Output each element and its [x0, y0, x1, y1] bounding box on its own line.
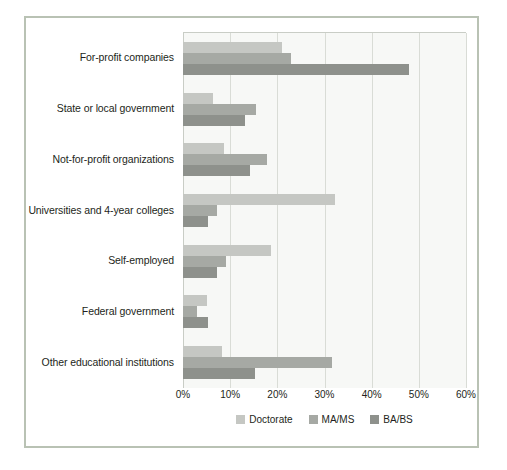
- bar-row: [183, 256, 466, 267]
- x-tick-label: 0%: [176, 389, 190, 400]
- bar-ma-ms[interactable]: [183, 306, 197, 317]
- chart-plot-container: For-profit companiesState or local gover…: [26, 18, 477, 446]
- plot-area: [183, 32, 466, 388]
- bar-ma-ms[interactable]: [183, 256, 226, 267]
- bar-ba-bs[interactable]: [183, 165, 250, 176]
- bar-group: [183, 33, 466, 84]
- legend-swatch-icon: [370, 415, 379, 424]
- category-label: Not-for-profit organizations: [26, 133, 181, 184]
- bar-group: [183, 337, 466, 388]
- bar-ma-ms[interactable]: [183, 205, 217, 216]
- bar-row: [183, 165, 466, 176]
- bar-ma-ms[interactable]: [183, 104, 256, 115]
- legend-label: Doctorate: [249, 414, 292, 425]
- chart-legend: DoctorateMA/MSBA/BS: [183, 410, 466, 428]
- bar-row: [183, 154, 466, 165]
- legend-item-ma-ms[interactable]: MA/MS: [309, 414, 355, 425]
- bar-row: [183, 267, 466, 278]
- bar-doctorate[interactable]: [183, 194, 335, 205]
- bar-doctorate[interactable]: [183, 245, 271, 256]
- bar-group: [183, 287, 466, 338]
- legend-swatch-icon: [309, 415, 318, 424]
- bar-row: [183, 317, 466, 328]
- bar-ba-bs[interactable]: [183, 216, 208, 227]
- x-axis: 0%10%20%30%40%50%60%: [183, 387, 466, 407]
- bar-ba-bs[interactable]: [183, 317, 208, 328]
- bar-ba-bs[interactable]: [183, 368, 255, 379]
- bar-group: [183, 84, 466, 135]
- bar-ba-bs[interactable]: [183, 267, 217, 278]
- bar-row: [183, 368, 466, 379]
- legend-item-ba-bs[interactable]: BA/BS: [370, 414, 412, 425]
- category-axis: For-profit companiesState or local gover…: [26, 32, 181, 387]
- bar-row: [183, 295, 466, 306]
- bar-ma-ms[interactable]: [183, 357, 332, 368]
- bar-doctorate[interactable]: [183, 346, 222, 357]
- category-label: Universities and 4-year colleges: [26, 184, 181, 235]
- bar-ba-bs[interactable]: [183, 64, 409, 75]
- category-label: State or local government: [26, 83, 181, 134]
- bar-doctorate[interactable]: [183, 143, 224, 154]
- legend-item-doctorate[interactable]: Doctorate: [236, 414, 292, 425]
- legend-label: MA/MS: [322, 414, 355, 425]
- x-tick-label: 20%: [267, 389, 287, 400]
- category-label: Federal government: [26, 286, 181, 337]
- bar-row: [183, 216, 466, 227]
- gridline: [466, 33, 467, 388]
- x-tick-label: 40%: [362, 389, 382, 400]
- bar-row: [183, 93, 466, 104]
- bar-row: [183, 346, 466, 357]
- bar-row: [183, 357, 466, 368]
- bar-row: [183, 64, 466, 75]
- bar-row: [183, 194, 466, 205]
- x-tick-label: 60%: [456, 389, 476, 400]
- bar-row: [183, 143, 466, 154]
- bar-row: [183, 205, 466, 216]
- category-label: Self-employed: [26, 235, 181, 286]
- bar-doctorate[interactable]: [183, 93, 213, 104]
- bar-row: [183, 306, 466, 317]
- bar-doctorate[interactable]: [183, 295, 207, 306]
- bar-group: [183, 185, 466, 236]
- bar-doctorate[interactable]: [183, 42, 282, 53]
- category-label: Other educational institutions: [26, 336, 181, 387]
- bar-row: [183, 115, 466, 126]
- legend-label: BA/BS: [383, 414, 412, 425]
- bar-groups: [183, 33, 466, 388]
- bar-ma-ms[interactable]: [183, 53, 291, 64]
- bar-group: [183, 236, 466, 287]
- x-tick-label: 30%: [314, 389, 334, 400]
- bar-row: [183, 42, 466, 53]
- x-tick-label: 10%: [220, 389, 240, 400]
- bar-group: [183, 134, 466, 185]
- bar-row: [183, 104, 466, 115]
- bar-row: [183, 245, 466, 256]
- bar-ma-ms[interactable]: [183, 154, 267, 165]
- category-label: For-profit companies: [26, 32, 181, 83]
- legend-swatch-icon: [236, 415, 245, 424]
- bar-ba-bs[interactable]: [183, 115, 245, 126]
- bar-row: [183, 53, 466, 64]
- x-tick-label: 50%: [409, 389, 429, 400]
- chart-figure: For-profit companiesState or local gover…: [24, 16, 479, 448]
